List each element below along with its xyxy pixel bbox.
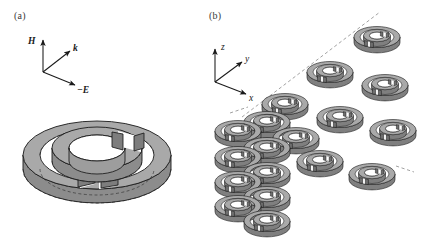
coordinate-axes-triad: z y x [215,42,254,103]
axis-k-label: k [73,43,78,53]
srr-unit [307,62,353,88]
srr-unit [244,211,290,237]
guide-line-x [230,107,248,113]
panel-b-graphic: z y x [200,0,429,240]
srr-unit [362,75,408,101]
axis-z-label: z [220,42,225,52]
panel-a-graphic: H k −E [0,0,215,240]
axis-H-label: H [27,36,36,46]
inner-gap-end-face-left [112,132,123,150]
axis-x-arrow [215,82,246,94]
axis-x-label: x [248,93,254,103]
srr-unit [297,151,343,177]
field-axes-triad: H k −E [27,36,89,95]
srr-unit [349,164,395,190]
srr-unit [317,107,363,133]
figure-container: (a) H k −E [0,0,429,240]
srr-unit [354,27,400,53]
panel-b: (b) [200,0,429,240]
inner-ring [52,127,144,182]
axis-negE-label: −E [77,85,89,95]
axis-k-arrow [43,51,70,72]
srr-unit [215,147,261,173]
axis-y-label: y [244,54,250,64]
axis-negE-arrow [43,72,75,85]
srr-unit [370,120,416,146]
axis-y-arrow [215,62,242,82]
panel-a: (a) H k −E [0,0,215,240]
inner-gap-end-face-right [134,133,144,151]
guide-line-x2 [396,166,414,172]
